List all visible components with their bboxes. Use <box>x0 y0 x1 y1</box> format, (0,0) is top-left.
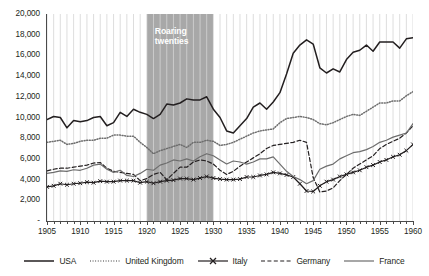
x-tick <box>127 221 128 224</box>
x-tick <box>160 221 161 224</box>
x-tick <box>114 221 115 225</box>
x-tick <box>60 221 61 224</box>
x-tick <box>320 221 321 224</box>
legend-label: United Kingdom <box>125 256 183 266</box>
x-tick <box>207 221 208 224</box>
x-tick <box>233 221 234 224</box>
legend-swatch-icon <box>261 256 291 266</box>
legend-usa[interactable]: USA <box>24 256 76 266</box>
x-tick <box>313 221 314 225</box>
x-tick <box>340 221 341 224</box>
x-tick <box>267 221 268 224</box>
x-tick <box>100 221 101 224</box>
x-tick <box>213 221 214 225</box>
y-tick-label: 8,000 <box>0 134 40 142</box>
x-tick <box>193 221 194 224</box>
x-tick <box>200 221 201 224</box>
x-tick <box>386 221 387 224</box>
x-tick <box>187 221 188 224</box>
x-tick <box>307 221 308 224</box>
x-tick <box>87 221 88 224</box>
legend-label: France <box>379 256 404 266</box>
legend-swatch-icon <box>24 256 54 266</box>
series-lines <box>47 14 413 221</box>
x-tick <box>107 221 108 224</box>
x-tick <box>67 221 68 224</box>
x-tick <box>47 221 48 225</box>
x-axis-labels: 1905191019151920192519301935194019451950… <box>0 227 429 241</box>
x-tick <box>273 221 274 224</box>
legend-italy[interactable]: Italy <box>198 256 248 266</box>
y-tick-label: 6,000 <box>0 155 40 163</box>
y-tick-label: 20,000 <box>0 10 40 18</box>
x-tick <box>80 221 81 225</box>
x-tick <box>366 221 367 224</box>
legend-swatch-icon <box>90 256 120 266</box>
x-tick <box>380 221 381 225</box>
y-tick-label: 12,000 <box>0 93 40 101</box>
chart-container: -2,0004,0006,0008,00010,00012,00014,0001… <box>0 0 429 276</box>
legend-label: USA <box>59 256 76 266</box>
legend-united-kingdom[interactable]: United Kingdom <box>90 256 183 266</box>
x-tick <box>140 221 141 224</box>
x-tick <box>373 221 374 224</box>
plot-area: Roaringtwenties <box>47 14 413 221</box>
x-tick <box>167 221 168 224</box>
legend-germany[interactable]: Germany <box>261 256 330 266</box>
y-tick-label: 18,000 <box>0 31 40 39</box>
x-tick <box>346 221 347 225</box>
x-tick <box>153 221 154 224</box>
x-tick <box>74 221 75 224</box>
x-tick <box>94 221 95 224</box>
y-tick-label: 2,000 <box>0 196 40 204</box>
x-tick <box>326 221 327 224</box>
x-tick <box>54 221 55 224</box>
y-tick-label: 4,000 <box>0 176 40 184</box>
x-tick <box>220 221 221 224</box>
x-tick <box>147 221 148 225</box>
x-tick <box>333 221 334 224</box>
x-tick <box>247 221 248 225</box>
y-tick-label: 14,000 <box>0 72 40 80</box>
x-tick <box>134 221 135 224</box>
x-tick <box>293 221 294 224</box>
x-tick <box>353 221 354 224</box>
legend-label: Italy <box>233 256 248 266</box>
x-tick <box>300 221 301 224</box>
y-tick-label: - <box>0 217 40 225</box>
x-tick <box>227 221 228 224</box>
chart-legend: USAUnited KingdomItalyGermanyFrance <box>0 250 429 272</box>
x-tick <box>253 221 254 224</box>
legend-france[interactable]: France <box>344 256 404 266</box>
x-tick <box>280 221 281 225</box>
y-tick-label: 16,000 <box>0 51 40 59</box>
x-tick <box>393 221 394 224</box>
x-tick <box>413 221 414 225</box>
x-tick <box>240 221 241 224</box>
legend-swatch-icon <box>198 256 228 266</box>
legend-swatch-icon <box>344 256 374 266</box>
x-tick <box>173 221 174 224</box>
x-tick <box>400 221 401 224</box>
x-tick <box>360 221 361 224</box>
x-tick <box>287 221 288 224</box>
x-tick <box>406 221 407 224</box>
y-tick-label: 10,000 <box>0 114 40 122</box>
x-tick <box>120 221 121 224</box>
x-tick <box>260 221 261 224</box>
x-tick-label: 1960 <box>393 227 429 236</box>
legend-label: Germany <box>296 256 330 266</box>
x-tick <box>180 221 181 225</box>
roaring-twenties-text: Roaringtwenties <box>155 26 189 46</box>
